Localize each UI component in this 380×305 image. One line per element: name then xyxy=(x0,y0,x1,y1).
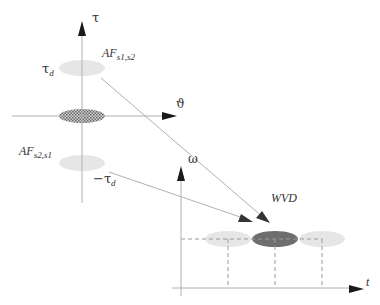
tau-axis-arrow-icon xyxy=(78,21,86,36)
theta-axis-arrow-icon xyxy=(162,112,177,120)
mapping-line-af-s2s1 xyxy=(109,172,246,219)
af-s1s2-label: AFs1,s2 xyxy=(101,46,135,62)
wvd-ambiguity-diagram: τ ϑ τd −τd AFs1,s2 AFs2,s1 xyxy=(0,0,380,305)
theta-axis-label: ϑ xyxy=(176,97,185,111)
tau-d-label: τd xyxy=(42,61,54,78)
omega-axis-label: ω xyxy=(188,152,198,166)
af-s2s1-label: AFs2,s1 xyxy=(18,144,52,160)
tau-axis-label: τ xyxy=(92,10,99,25)
t-axis-arrow-icon xyxy=(349,285,364,293)
ambiguity-plane: τ ϑ τd −τd AFs1,s2 AFs2,s1 xyxy=(12,10,185,203)
t-axis-label: t xyxy=(366,275,370,289)
wvd-label: WVD xyxy=(271,191,297,205)
tf-plane: ω t WVD xyxy=(172,152,370,296)
mapping-arrowhead-icon xyxy=(238,214,253,222)
mapping-arrows xyxy=(101,78,270,223)
omega-axis-arrow-icon xyxy=(177,166,185,181)
